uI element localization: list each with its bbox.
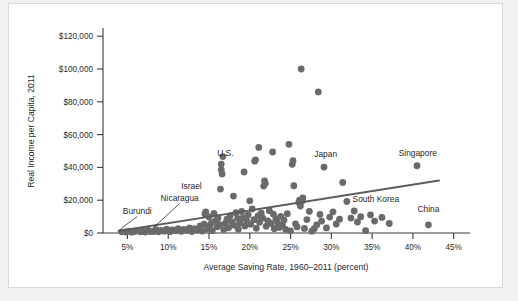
data-point <box>303 216 310 223</box>
data-point <box>262 180 269 187</box>
data-point <box>290 182 297 189</box>
annotation-label: Nicaragua <box>161 193 200 203</box>
x-tick-label: 20% <box>242 243 258 252</box>
data-point <box>425 221 432 228</box>
annotation-label: U.S. <box>217 148 233 158</box>
annotation-label: Burundi <box>123 206 152 216</box>
data-point <box>286 141 293 148</box>
data-point <box>315 89 322 96</box>
y-tick-label: $100,000 <box>59 65 94 74</box>
data-point <box>321 164 328 171</box>
annotation-label: Japan <box>314 149 337 159</box>
data-point <box>336 216 343 223</box>
data-point <box>357 213 364 220</box>
y-tick-label: $80,000 <box>63 98 93 107</box>
annotation-label: Israel <box>181 181 202 191</box>
data-point <box>219 171 226 178</box>
data-point <box>230 193 237 200</box>
y-axis-title: Real Income per Capita, 2011 <box>26 74 36 188</box>
data-points-group <box>118 66 431 236</box>
x-tick-label: 40% <box>405 243 421 252</box>
y-tick-label: $60,000 <box>63 131 93 140</box>
data-point <box>269 149 276 156</box>
data-point <box>367 211 374 218</box>
x-tick-group: 5%10%15%20%25%30%35%40%45% <box>122 233 462 252</box>
annotation-label: South Korea <box>353 194 400 204</box>
data-point <box>318 218 325 225</box>
chart-page: $0$20,000$40,000$60,000$80,000$100,000$1… <box>0 0 518 301</box>
data-point <box>330 208 337 215</box>
data-point <box>414 162 421 169</box>
data-point <box>362 227 369 234</box>
data-point <box>317 211 324 218</box>
data-point <box>252 156 259 163</box>
scatter-plot: $0$20,000$40,000$60,000$80,000$100,000$1… <box>0 0 518 301</box>
y-tick-group: $0$20,000$40,000$60,000$80,000$100,000$1… <box>59 32 103 238</box>
data-point <box>245 211 252 218</box>
data-point <box>299 195 306 202</box>
y-tick-label: $120,000 <box>59 32 94 41</box>
data-point <box>241 169 248 176</box>
annotation-label: Singapore <box>399 148 438 158</box>
data-point <box>287 227 294 234</box>
data-point <box>301 225 308 232</box>
data-point <box>284 210 291 217</box>
data-point <box>255 144 262 151</box>
x-tick-label: 35% <box>364 243 380 252</box>
x-tick-label: 15% <box>201 243 217 252</box>
x-tick-label: 30% <box>323 243 339 252</box>
data-point <box>294 224 301 231</box>
data-point <box>339 179 346 186</box>
x-tick-label: 10% <box>160 243 176 252</box>
data-point <box>351 208 358 215</box>
data-point <box>323 225 330 232</box>
data-point <box>253 225 260 232</box>
data-point <box>379 214 386 221</box>
x-axis-title: Average Saving Rate, 1960–2011 (percent) <box>204 262 369 272</box>
data-point <box>386 220 393 227</box>
y-tick-label: $40,000 <box>63 163 93 172</box>
data-point <box>371 218 378 225</box>
y-tick-label: $0 <box>84 229 94 238</box>
y-tick-label: $20,000 <box>63 196 93 205</box>
x-tick-label: 45% <box>445 243 461 252</box>
x-tick-label: 5% <box>122 243 134 252</box>
annotation-label: China <box>417 204 439 214</box>
data-point <box>298 66 305 73</box>
data-point <box>306 208 313 215</box>
y-axis-group: $0$20,000$40,000$60,000$80,000$100,000$1… <box>59 28 103 238</box>
data-point <box>348 215 355 222</box>
data-point <box>217 186 224 193</box>
annotation-leader-line <box>122 217 137 228</box>
data-point <box>246 197 253 204</box>
data-point <box>343 198 350 205</box>
data-point <box>290 157 297 164</box>
data-point <box>235 226 242 233</box>
x-axis-group: 5%10%15%20%25%30%35%40%45% <box>103 233 470 252</box>
data-point <box>281 217 288 224</box>
x-tick-label: 25% <box>282 243 298 252</box>
